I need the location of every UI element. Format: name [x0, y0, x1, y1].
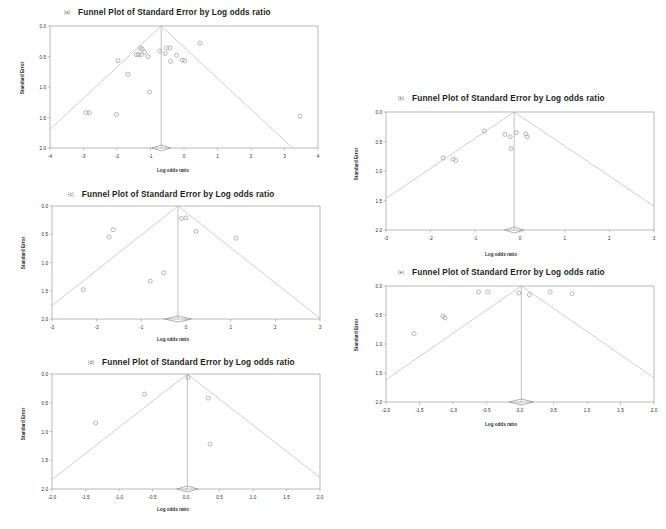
panel-a-xtick-label: -1 [148, 154, 152, 159]
panel-d-xtick-label: 2.0 [317, 495, 323, 500]
panel-c-data-point [184, 216, 188, 220]
panel-a-data-point [198, 41, 202, 45]
panel-a-header: (a) Funnel Plot of Standard Error by Log… [8, 6, 338, 18]
panel-b-ytick-label: 0.0 [368, 110, 382, 115]
panel-a-data-point [87, 111, 91, 115]
panel-e-canvas [336, 280, 666, 441]
panel-b-ytick-label: 2.0 [368, 228, 382, 233]
panel-d-data-point [206, 396, 210, 400]
panel-b-data-point [441, 156, 445, 160]
panel-e-xtick-label: 0.0 [517, 408, 523, 413]
panel-e-ytick-label: 2.0 [368, 400, 382, 405]
panel-c-ytick-label: 1.5 [34, 288, 48, 293]
panel-c-data-point [162, 271, 166, 275]
panel-a-xtick-label: 2 [250, 154, 253, 159]
panel-d-xtick-label: 0.5 [216, 495, 222, 500]
panel-a-ytick-label: 0.0 [32, 24, 46, 29]
panel-c-xtick-label: 3 [319, 325, 322, 330]
panel-c-xtick-label: -2 [95, 325, 99, 330]
panel-d-xtick-label: -1.5 [82, 495, 90, 500]
panel-b-xtick-label: -2 [429, 236, 433, 241]
panel-a-funnel-right [161, 26, 292, 148]
panel-a-ytick-label: 1.5 [32, 115, 46, 120]
panel-b-funnel-right [514, 112, 654, 206]
panel-e-ytick-label: 0.5 [368, 313, 382, 318]
panel-c-ytick-label: 0.5 [34, 232, 48, 237]
panel-a-title: Funnel Plot of Standard Error by Log odd… [78, 8, 271, 17]
panel-e-data-point [570, 292, 574, 296]
panel-e-data-point [527, 293, 531, 297]
panel-a-plot: Standard Error Log odds ratio -4-3-2-101… [8, 20, 338, 188]
panel-a-xtick-label: -2 [115, 154, 119, 159]
panel-e-data-point [412, 332, 416, 336]
panel-b-data-point [509, 147, 513, 151]
panel-d-data-point [94, 421, 98, 425]
panel-b-xtick-label: 0 [519, 236, 522, 241]
panel-b-funnel-left [386, 112, 514, 198]
panel-b-data-point [514, 131, 518, 135]
panel-c-funnel-right [178, 206, 320, 318]
panel-e-data-point [517, 291, 521, 295]
panel-d-funnel-right [187, 374, 320, 478]
panel-d-data-point [186, 375, 190, 379]
panel-b-tag: (b) [336, 96, 404, 101]
funnel-panel-a: (a) Funnel Plot of Standard Error by Log… [8, 6, 338, 188]
panel-c-ytick-label: 0.0 [34, 204, 48, 209]
panel-a-xtick-label: 0 [183, 154, 186, 159]
panel-c-funnel-left [52, 206, 178, 306]
panel-c-ytick-label: 1.0 [34, 260, 48, 265]
panel-d-header: (d) Funnel Plot of Standard Error by Log… [8, 356, 338, 368]
panel-c-data-point [81, 288, 85, 292]
panel-b-data-point [503, 132, 507, 136]
panel-b-xtick-label: -3 [384, 236, 388, 241]
panel-c-header: (c) Funnel Plot of Standard Error by Log… [8, 188, 338, 200]
panel-e-data-point [476, 290, 480, 294]
panel-a-data-point [114, 112, 118, 116]
panel-e-ytick-label: 1.5 [368, 371, 382, 376]
panel-d-xtick-label: -1.0 [115, 495, 123, 500]
panel-c-title: Funnel Plot of Standard Error by Log odd… [82, 190, 275, 199]
panel-e-plot-frame [386, 286, 654, 402]
panel-c-xtick-label: 0 [185, 325, 188, 330]
panel-b-ytick-label: 1.0 [368, 169, 382, 174]
panel-a-plot-frame [50, 26, 318, 148]
panel-d-ytick-label: 2.0 [34, 487, 48, 492]
panel-d-ytick-label: 0.0 [34, 372, 48, 377]
panel-e-plot: Standard Error Log odds ratio -2.0-1.5-1… [336, 280, 666, 441]
panel-c-xtick-label: -1 [139, 325, 143, 330]
panel-c-xtick-label: 2 [274, 325, 277, 330]
funnel-panel-d: (d) Funnel Plot of Standard Error by Log… [8, 356, 338, 526]
panel-d-xtick-label: 1.0 [250, 495, 256, 500]
panel-d-xtick-label: 0.0 [183, 495, 189, 500]
panel-a-data-point [142, 50, 146, 54]
panel-a-canvas [8, 20, 338, 188]
panel-c-canvas [8, 201, 338, 356]
panel-d-xtick-label: -2.0 [48, 495, 56, 500]
panel-b-xtick-label: 1 [563, 236, 566, 241]
panel-c-data-point [107, 235, 111, 239]
panel-e-data-point [486, 290, 490, 294]
panel-d-ytick-label: 0.5 [34, 400, 48, 405]
panel-e-ytick-label: 1.0 [368, 342, 382, 347]
panel-e-xtick-label: -2.0 [382, 408, 390, 413]
panel-c-plot: Standard Error Log odds ratio -3-2-10123… [8, 201, 338, 356]
panel-a-tag: (a) [8, 10, 70, 15]
panel-d-canvas [8, 369, 338, 526]
panel-e-xtick-label: 0.5 [550, 408, 556, 413]
panel-c-plot-frame [52, 206, 320, 319]
panel-a-funnel-left [50, 26, 161, 129]
panel-a-xtick-label: 3 [283, 154, 286, 159]
panel-b-xtick-label: 3 [653, 236, 656, 241]
panel-d-plot-frame [52, 374, 320, 489]
panel-b-plot: Standard Error Log odds ratio -3-2-10123… [336, 106, 666, 272]
panel-b-header: (b) Funnel Plot of Standard Error by Log… [336, 92, 666, 104]
panel-c-data-point [234, 236, 238, 240]
panel-d-title: Funnel Plot of Standard Error by Log odd… [102, 358, 295, 367]
panel-d-xtick-label: -0.5 [149, 495, 157, 500]
funnel-panel-b: (b) Funnel Plot of Standard Error by Log… [336, 92, 666, 272]
panel-e-xtick-label: 2.0 [651, 408, 657, 413]
panel-d-plot: Standard Error Log odds ratio -2.0-1.5-1… [8, 369, 338, 526]
panel-e-funnel-left [386, 286, 521, 380]
panel-b-ytick-label: 0.5 [368, 139, 382, 144]
panel-a-data-point [116, 59, 120, 63]
